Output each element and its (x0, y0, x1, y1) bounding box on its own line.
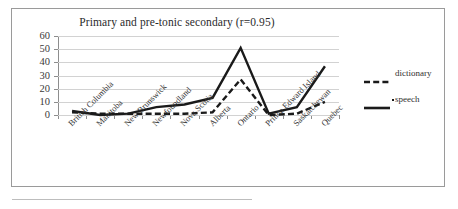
y-axis-tick-label: 30 (24, 71, 50, 81)
legend-marker-dot-icon (392, 99, 394, 101)
y-axis-tick-label: 20 (24, 84, 50, 94)
legend-label: dictionary (395, 68, 432, 78)
x-axis-tick (339, 115, 340, 119)
y-axis-tick-label: 50 (24, 44, 50, 54)
y-axis-tick-label: 60 (24, 31, 50, 41)
chart-title: Primary and pre-tonic secondary (r=0.95) (12, 16, 342, 28)
dashed-line-key-icon (364, 72, 390, 80)
legend-label: speech (395, 94, 420, 104)
y-axis-tick-label: 40 (24, 57, 50, 67)
legend-item-dictionary[interactable]: dictionary (364, 66, 444, 92)
solid-line-key-icon (364, 98, 390, 106)
page-divider-rule (12, 199, 252, 200)
chart-legend: dictionaryspeech (364, 66, 444, 118)
y-axis-tick-label: 0 (24, 110, 50, 120)
chart-card: Primary and pre-tonic secondary (r=0.95)… (11, 8, 445, 187)
y-axis-tick-label: 10 (24, 97, 50, 107)
legend-item-speech[interactable]: speech (364, 92, 444, 118)
